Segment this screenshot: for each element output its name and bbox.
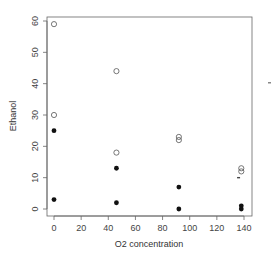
plot-box [47, 17, 252, 216]
filled-point [239, 207, 244, 212]
y-tick-label: 30 [30, 110, 40, 120]
x-tick-label: 40 [103, 223, 113, 233]
y-tick-label: 60 [30, 16, 40, 26]
x-tick-label: 140 [236, 223, 251, 233]
y-tick-label: 20 [30, 141, 40, 151]
data-points [51, 22, 243, 212]
open-point [239, 169, 244, 174]
filled-point [52, 128, 57, 133]
filled-point [176, 207, 181, 212]
x-axis-label: O2 concentration [115, 239, 184, 249]
dash-point [237, 177, 240, 178]
y-tick-label: 50 [30, 47, 40, 57]
filled-point [52, 197, 57, 202]
stray-mark [268, 82, 271, 84]
y-tick-label: 10 [30, 173, 40, 183]
open-point [51, 22, 56, 27]
y-axis-label: Ethanol [8, 101, 18, 132]
x-tick-label: 120 [209, 223, 224, 233]
open-point [114, 150, 119, 155]
y-axis: 0102030405060 [30, 16, 47, 212]
x-axis: 020406080100120140 [51, 216, 251, 233]
filled-point [176, 185, 181, 190]
x-tick-label: 60 [130, 223, 140, 233]
filled-point [114, 166, 119, 171]
y-tick-label: 0 [30, 206, 40, 211]
open-point [176, 137, 181, 142]
y-tick-label: 40 [30, 79, 40, 89]
x-tick-label: 80 [158, 223, 168, 233]
open-point [51, 112, 56, 117]
open-point [114, 69, 119, 74]
x-tick-label: 100 [182, 223, 197, 233]
x-tick-label: 20 [76, 223, 86, 233]
x-tick-label: 0 [51, 223, 56, 233]
filled-point [114, 200, 119, 205]
scatter-plot: 020406080100120140 0102030405060 O2 conc… [0, 0, 277, 255]
